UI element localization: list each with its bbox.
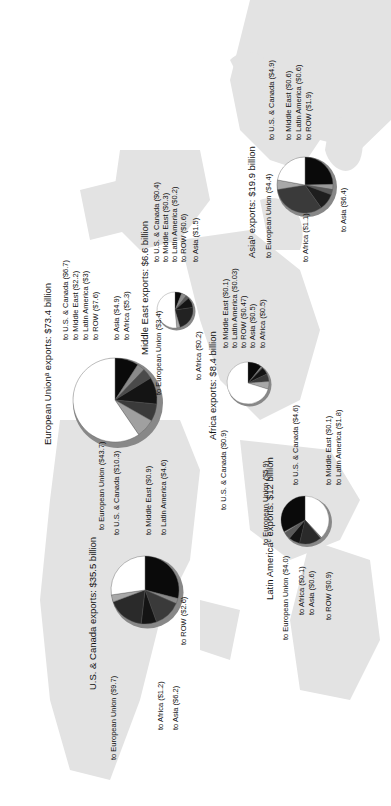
asia-title: Asiaᵇ exports: $19.9 billion [247, 146, 257, 258]
middle-east-title: Middle East exports: $6.6 billion [140, 221, 150, 355]
la-label-us-canada: to U.S. & Canada ($4.6) [292, 405, 300, 485]
asia-label-latin-america: to Latin America ($0.6) [295, 65, 303, 140]
africa-label-row: to ROW ($0.47) [240, 295, 248, 348]
eu-label-africa: to Africa ($5.3) [123, 291, 131, 340]
la-label-middle-east: to Middle East ($0.1) [325, 416, 333, 485]
me-label-us-canada: to U.S. & Canada ($0.4) [153, 182, 161, 262]
pie-slice [277, 157, 305, 185]
asia-label-africa: to Africa ($1.1) [302, 213, 310, 262]
me-label-asia: to Asia ($1.5) [192, 218, 200, 262]
africa-label-middle-east: to Middle East ($0.1) [222, 279, 230, 348]
la-label-row: to ROW ($0.9) [325, 572, 333, 620]
me-label-latin-america: to Latin America ($0.2) [171, 187, 179, 262]
la-label-asia: to Asia ($0.6) [308, 571, 316, 615]
eu-label-row: to ROW ($7.6) [92, 292, 100, 340]
africa-label-asia: to Asia ($0.5) [249, 304, 257, 348]
latin-america-title: Latin Americaᶜ exports: $12 billion [265, 457, 275, 600]
africa-label-africa: to Africa ($0.5) [259, 299, 267, 348]
africa-pie-chart [220, 355, 276, 411]
eu-label-middle-east: to Middle East ($2.2) [72, 271, 80, 340]
me-label-africa: to Africa ($0.2) [195, 331, 203, 380]
us-canada-title: U.S. & Canada exports: $35.5 billion [88, 537, 98, 690]
pie-slice [305, 157, 333, 185]
us-canada-pie-chart [100, 545, 190, 635]
usc-label-latin-america: to Latin America ($4.6) [160, 460, 168, 535]
asia-label-row: to ROW ($1.9) [305, 92, 313, 140]
asia-label-middle-east: to Middle East ($0.6) [285, 71, 293, 140]
me-label-eu: to European Union ($3.4) [155, 311, 163, 395]
eu-label-eu: to European Union ($43.7) [98, 442, 106, 530]
pie-slice [111, 556, 145, 595]
usc-label-row: to ROW ($2.6) [180, 597, 188, 645]
latin-america-pie-chart [275, 490, 335, 550]
la-label-africa: to Africa ($0.1) [298, 566, 306, 615]
eu-label-asia: to Asia ($4.9) [113, 296, 121, 340]
africa-label-us-canada: to U.S. & Canada ($0.9) [220, 430, 228, 510]
asia-label-us-canada: to U.S. & Canada ($4.9) [268, 60, 276, 140]
eu-label-us-canada: to U.S. & Canada ($6.7) [62, 260, 70, 340]
la-label-eu: to European Union ($4.0) [282, 556, 290, 640]
africa-label-latin-america: to Latin America ($0.03) [231, 268, 239, 348]
asia-label-eu: to European Union ($4.4) [265, 174, 273, 258]
me-label-row: to ROW ($0.6) [180, 214, 188, 262]
asia-label-asia: to Asia ($6.4) [340, 188, 348, 232]
usc-label-eu: to European Union ($9.7) [110, 676, 118, 760]
la-label-latin-america: to Latin America ($1.8) [335, 410, 343, 485]
eu-label-latin-america: to Latin America ($3) [82, 271, 90, 340]
world-map [0, 0, 391, 806]
usc-label-middle-east: to Middle East ($0.9) [145, 466, 153, 535]
me-label-middle-east: to Middle East ($0.3) [162, 193, 170, 262]
eu-title: European Unionᵃ exports: $73.4 billion [43, 283, 53, 445]
africa-title: Africa exports: $8.4 billion [208, 331, 218, 440]
usc-label-africa: to Africa ($1.2) [157, 681, 165, 730]
usc-label-us-canada: to U.S. & Canada ($10.3) [113, 451, 121, 535]
usc-label-asia: to Asia ($6.2) [172, 686, 180, 730]
